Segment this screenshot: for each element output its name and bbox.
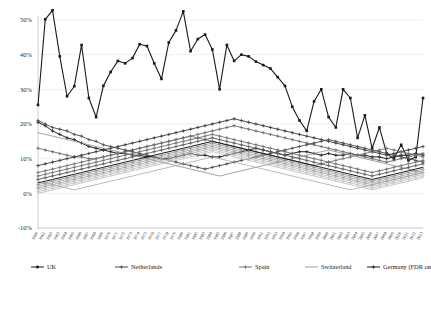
data-point-marker bbox=[94, 150, 97, 153]
data-point-marker bbox=[138, 140, 141, 143]
data-point-marker bbox=[298, 119, 301, 122]
data-point-marker bbox=[167, 133, 170, 136]
data-point-marker bbox=[305, 159, 308, 162]
data-point-marker bbox=[232, 117, 235, 120]
data-point-marker bbox=[305, 150, 308, 153]
data-point-marker bbox=[167, 41, 170, 44]
data-point-marker bbox=[284, 85, 287, 88]
data-point-marker bbox=[189, 128, 192, 131]
data-point-marker bbox=[109, 160, 112, 163]
data-point-marker bbox=[298, 133, 301, 136]
legend-item-spain[interactable]: Spain bbox=[238, 261, 304, 273]
data-point-marker bbox=[392, 169, 395, 172]
data-point-marker bbox=[182, 140, 185, 143]
data-point-marker bbox=[36, 119, 39, 122]
data-point-marker bbox=[218, 164, 221, 167]
data-point-marker bbox=[414, 164, 417, 167]
data-point-marker bbox=[160, 145, 163, 148]
data-point-marker bbox=[225, 119, 228, 122]
data-point-marker bbox=[58, 55, 61, 58]
data-point-marker bbox=[51, 160, 54, 163]
data-point-marker bbox=[335, 126, 338, 129]
data-point-marker bbox=[58, 128, 61, 131]
data-point-marker bbox=[153, 62, 156, 65]
data-point-marker bbox=[305, 134, 308, 137]
chart-container: -10%0%10%20%30%40%50%1960196119621963196… bbox=[0, 0, 431, 317]
data-point-marker bbox=[73, 166, 76, 169]
data-point-marker bbox=[327, 116, 330, 119]
legend-swatch-line-icon bbox=[304, 263, 319, 271]
data-point-marker bbox=[372, 265, 375, 268]
data-point-marker bbox=[44, 148, 47, 151]
data-point-marker bbox=[44, 173, 47, 176]
data-point-marker bbox=[120, 265, 123, 268]
data-point-marker bbox=[247, 141, 250, 144]
legend-item-uk[interactable]: UK bbox=[30, 261, 114, 273]
data-point-marker bbox=[160, 148, 163, 151]
data-point-marker bbox=[174, 131, 177, 134]
data-point-marker bbox=[167, 143, 170, 146]
data-point-marker bbox=[87, 152, 90, 155]
data-point-marker bbox=[102, 155, 105, 158]
data-point-marker bbox=[255, 60, 258, 63]
plot-area: -10%0%10%20%30%40%50%1960196119621963196… bbox=[0, 0, 431, 258]
data-point-marker bbox=[36, 147, 39, 150]
data-point-marker bbox=[327, 160, 330, 163]
y-axis-tick-label: 30% bbox=[20, 86, 33, 93]
data-point-marker bbox=[87, 166, 90, 169]
data-point-marker bbox=[182, 143, 185, 146]
data-point-marker bbox=[51, 150, 54, 153]
data-point-marker bbox=[58, 152, 61, 155]
data-point-marker bbox=[203, 167, 206, 170]
data-point-marker bbox=[203, 138, 206, 141]
data-point-marker bbox=[102, 143, 105, 146]
data-point-marker bbox=[58, 159, 61, 162]
data-point-marker bbox=[218, 134, 221, 137]
data-point-marker bbox=[269, 67, 272, 70]
data-point-marker bbox=[363, 169, 366, 172]
data-point-marker bbox=[87, 162, 90, 165]
data-point-marker bbox=[291, 138, 294, 141]
data-point-marker bbox=[80, 160, 83, 163]
data-point-marker bbox=[73, 85, 76, 88]
data-point-marker bbox=[240, 119, 243, 122]
data-point-marker bbox=[269, 147, 272, 150]
data-point-marker bbox=[94, 160, 97, 163]
data-point-marker bbox=[196, 126, 199, 129]
data-point-marker bbox=[51, 167, 54, 170]
data-point-marker bbox=[36, 171, 39, 174]
legend-item-netherlands[interactable]: Netherlands bbox=[114, 261, 238, 273]
data-point-marker bbox=[58, 166, 61, 169]
data-point-marker bbox=[117, 60, 120, 63]
data-point-marker bbox=[160, 134, 163, 137]
data-point-marker bbox=[131, 141, 134, 144]
data-point-marker bbox=[341, 157, 344, 160]
data-point-marker bbox=[305, 130, 308, 133]
data-point-marker bbox=[269, 133, 272, 136]
data-point-marker bbox=[218, 138, 221, 141]
data-point-marker bbox=[146, 45, 149, 48]
data-point-marker bbox=[65, 171, 68, 174]
data-point-marker bbox=[298, 150, 301, 153]
data-point-marker bbox=[225, 126, 228, 129]
data-point-marker bbox=[269, 126, 272, 129]
legend-item-switzerland[interactable]: Switzerland bbox=[304, 261, 366, 273]
data-point-marker bbox=[153, 143, 156, 146]
data-point-marker bbox=[145, 138, 148, 141]
data-point-marker bbox=[349, 166, 352, 169]
data-point-marker bbox=[66, 95, 69, 98]
data-point-marker bbox=[385, 167, 388, 170]
data-point-marker bbox=[80, 134, 83, 137]
data-point-marker bbox=[334, 162, 337, 165]
data-point-marker bbox=[225, 162, 228, 165]
legend-item-germany-fdr-only-up-to-1990[interactable]: Germany (FDR only up to 1990) bbox=[366, 261, 428, 273]
data-point-marker bbox=[392, 148, 395, 151]
data-point-marker bbox=[370, 174, 373, 177]
data-point-marker bbox=[232, 141, 235, 144]
data-point-marker bbox=[44, 176, 47, 179]
data-point-marker bbox=[204, 33, 207, 36]
data-point-marker bbox=[138, 43, 141, 46]
data-point-marker bbox=[320, 145, 323, 148]
data-point-marker bbox=[240, 140, 243, 143]
data-point-marker bbox=[312, 160, 315, 163]
